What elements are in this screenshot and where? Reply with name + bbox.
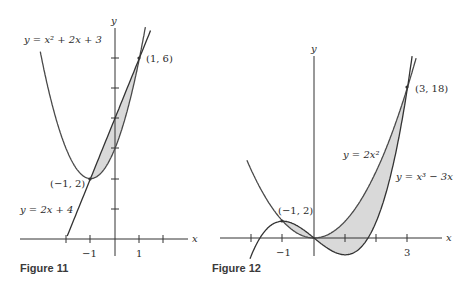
figure-11-parabola-label: y = x² + 2x + 3	[23, 34, 102, 45]
figure-11-x-axis-label: x	[192, 233, 198, 244]
figure-12-point-label-3-18: (3, 18)	[415, 83, 448, 94]
figure-12-plot: y x −1 3 y = 2x² y = x³ − 3x (3, 18) (−1…	[220, 43, 453, 259]
figure-canvas: y x −1 1 y = x² + 2x + 3 y = 2x + 4 (1, …	[0, 0, 470, 281]
figure-11-plot: y x −1 1 y = x² + 2x + 3 y = 2x + 4 (1, …	[19, 15, 198, 259]
figure-11-point-label-1-6: (1, 6)	[146, 53, 173, 64]
figure-12-point-neg1-2	[280, 219, 283, 222]
figure-11-point-label-neg1-2: (−1, 2)	[50, 178, 85, 189]
figure-11-point-1-6	[137, 56, 140, 59]
figure-11-parabola-curve	[40, 27, 145, 179]
figure-11-tick-label-neg1: −1	[82, 248, 97, 259]
figure-12-caption: Figure 12	[212, 262, 261, 274]
figure-11-line-label: y = 2x + 4	[19, 204, 74, 215]
figure-12-tick-label-neg1: −1	[276, 247, 291, 258]
figure-12-point-label-neg1-2: (−1, 2)	[278, 205, 313, 216]
figure-12-tick-label-3: 3	[404, 247, 410, 258]
figure-12-x-axis-label: x	[446, 232, 452, 243]
figure-12-shaded-region	[283, 87, 408, 255]
figure-11-y-axis-label: y	[110, 15, 117, 26]
figure-12-y-axis-label: y	[310, 43, 317, 54]
figure-11-caption: Figure 11	[20, 262, 68, 274]
figure-11-tick-label-1: 1	[136, 248, 142, 259]
figure-12-point-3-18	[405, 85, 408, 88]
figure-11-point-neg1-2	[88, 177, 91, 180]
figure-11-line-curve	[67, 31, 150, 236]
figure-12-quadratic-label: y = 2x²	[342, 149, 379, 160]
figure-12-cubic-label: y = x³ − 3x	[395, 171, 453, 182]
